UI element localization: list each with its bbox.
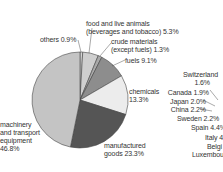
label-machinery-line1: machinery <box>0 121 31 129</box>
label-machinery-line4: 46.8% <box>0 145 19 153</box>
label-switzerland-line2: 1.6% <box>194 79 210 87</box>
label-chemicals-line2: 13.3% <box>129 96 148 104</box>
label-switzerland-line1: Switzerland <box>183 71 218 79</box>
label-crude-line2: (except fuels) 1.3% <box>111 46 169 54</box>
label-belgium: Belgi <box>207 143 222 151</box>
label-food-line2: (beverages and tobacco) 5.3% <box>86 28 179 36</box>
label-italy: Italy 4 <box>205 134 223 142</box>
label-manufactured-line2: goods 23.3% <box>104 150 144 158</box>
label-sweden: Sweden 2.2% <box>177 115 219 123</box>
label-canada: Canada 1.9% <box>168 89 209 97</box>
label-japan: Japan 2.0% <box>170 98 206 106</box>
label-spain: Spain 4.4% <box>191 124 223 132</box>
label-food-line1: food and live animals <box>86 20 150 28</box>
label-fuels: fuels 9.1% <box>125 57 157 65</box>
label-machinery-line3: equipment <box>0 137 32 145</box>
label-luxembourg: Luxembou <box>192 151 223 159</box>
label-china: China 2.2% <box>171 106 206 114</box>
label-machinery-line2: and transport <box>0 129 40 137</box>
label-chemicals-line1: chemicals <box>129 88 159 96</box>
label-crude-line1: crude materials <box>111 38 157 46</box>
label-manufactured-line1: manufactured <box>104 142 146 150</box>
label-others: others 0.9% <box>40 36 76 44</box>
